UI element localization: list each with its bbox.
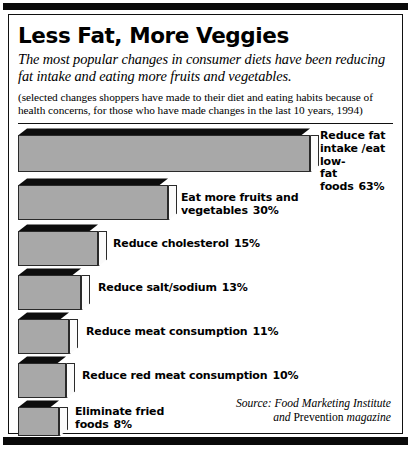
bar-top-face <box>18 128 310 135</box>
bar-plot-area: Reduce fat intake /eat low- fat foods63%… <box>18 128 393 433</box>
bar-top-face <box>18 356 66 363</box>
top-rule-band <box>3 3 408 10</box>
bar-label-4: Reduce salt/sodium13% <box>98 282 248 295</box>
bar-category-label: Eat more fruits and vegetables <box>181 191 298 217</box>
bar-3 <box>18 231 98 266</box>
bar-top-face <box>18 312 69 319</box>
bar-side-face <box>69 319 78 354</box>
source-line-2-pre: and <box>273 411 293 424</box>
bar-label-5: Reduce meat consumption11% <box>86 326 278 339</box>
bar-value-label: 63% <box>359 180 385 193</box>
bar-value-label: 15% <box>234 237 260 250</box>
bar-value-label: 11% <box>252 325 278 338</box>
bar-label-3: Reduce cholesterol15% <box>113 238 260 251</box>
bar-top-face <box>18 224 98 231</box>
bar-category-label: Reduce red meat consumption <box>82 369 267 382</box>
bar-5 <box>18 319 69 354</box>
bar-side-face <box>59 407 68 436</box>
bar-label-2: Eat more fruits and vegetables30% <box>181 192 393 217</box>
chart-title: Less Fat, More Veggies <box>18 23 393 48</box>
bar-value-label: 10% <box>272 369 298 382</box>
chart-subtitle: The most popular changes in consumer die… <box>18 51 393 85</box>
header-divider-rule <box>18 123 393 125</box>
source-line-1: Source: Food Marketing Institute <box>236 397 391 411</box>
chart-note: (selected changes shoppers have made to … <box>18 91 393 118</box>
bar-side-face <box>98 231 107 266</box>
chart-inner: Less Fat, More Veggies The most popular … <box>9 15 402 433</box>
bar-1 <box>18 135 310 172</box>
bar-4 <box>18 275 81 310</box>
bar-top-face <box>18 268 81 275</box>
source-attribution: Source: Food Marketing Institute and Pre… <box>236 397 391 425</box>
bar-value-label: 8% <box>114 418 132 431</box>
bar-side-face <box>168 185 177 220</box>
source-publication-name: Prevention <box>293 411 343 424</box>
bar-category-label: Reduce cholesterol <box>113 237 229 250</box>
bar-top-face <box>18 178 168 185</box>
source-line-2-post: magazine <box>344 411 391 424</box>
bar-value-label: 13% <box>222 281 248 294</box>
bar-2 <box>18 185 168 220</box>
chart-figure: Less Fat, More Veggies The most popular … <box>0 0 411 451</box>
source-line-2: and Prevention magazine <box>236 411 391 425</box>
bar-7 <box>18 407 59 436</box>
bar-label-1: Reduce fat intake /eat low- fat foods63% <box>320 130 393 193</box>
chart-frame: Less Fat, More Veggies The most popular … <box>8 14 403 434</box>
bottom-rule-band <box>3 437 408 445</box>
bar-side-face <box>310 135 319 172</box>
bar-label-7: Eliminate fried foods8% <box>75 406 164 431</box>
bar-side-face <box>66 363 75 398</box>
bar-category-label: Reduce salt/sodium <box>98 281 217 294</box>
bar-value-label: 30% <box>253 204 279 217</box>
bar-label-6: Reduce red meat consumption10% <box>82 370 298 383</box>
bar-side-face <box>81 275 90 310</box>
bar-category-label: Reduce meat consumption <box>86 325 247 338</box>
bar-top-face <box>18 400 59 407</box>
bar-6 <box>18 363 66 398</box>
